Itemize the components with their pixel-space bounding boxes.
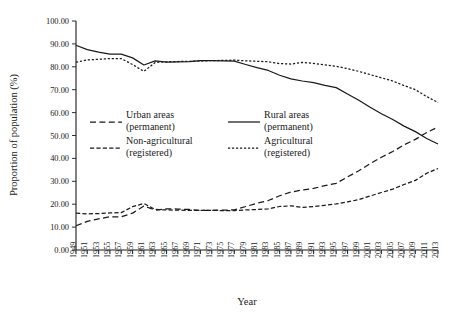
x-tick-label: 2007 (397, 242, 406, 258)
x-tick-label: 1983 (261, 242, 270, 258)
x-tick-label: 1967 (171, 242, 180, 258)
x-tick-label: 1989 (295, 242, 304, 258)
x-tick-label: 1995 (329, 242, 338, 258)
y-tick-label: 100.00 (46, 17, 69, 26)
legend-label-urban-areas: Urban areas (126, 109, 174, 120)
x-tick-label: 1959 (126, 242, 135, 258)
y-tick-label: 80.00 (50, 63, 69, 72)
x-tick-label: 1981 (250, 242, 259, 258)
y-tick-label: 10.00 (50, 223, 69, 232)
series-line-nonagricultural-registered (76, 168, 438, 213)
x-tick-label: 1965 (160, 242, 169, 258)
series-line-agricultural-registered (76, 59, 438, 103)
x-axis: 1949195119531955195719591961196319651967… (69, 242, 440, 258)
y-axis-title: Proportion of population (%) (8, 73, 20, 196)
y-axis-tick-labels: 0.0010.0020.0030.0040.0050.0060.0070.008… (46, 17, 69, 255)
x-tick-label: 1961 (137, 242, 146, 258)
y-tick-label: 90.00 (50, 40, 69, 49)
x-tick-label: 1969 (182, 242, 191, 258)
x-tick-label: 1997 (341, 242, 350, 258)
legend-label-urban-permanent: (permanent) (126, 121, 175, 133)
y-tick-label: 20.00 (50, 200, 69, 209)
line-chart: 0.0010.0020.0030.0040.0050.0060.0070.008… (0, 0, 455, 315)
x-tick-label: 1975 (216, 242, 225, 258)
x-tick-label: 1985 (273, 242, 282, 258)
x-tick-label: 1957 (114, 242, 123, 258)
x-tick-label: 1991 (307, 242, 316, 258)
x-tick-label: 1979 (239, 242, 248, 258)
y-tick-label: 50.00 (50, 132, 69, 141)
chart-figure: 0.0010.0020.0030.0040.0050.0060.0070.008… (0, 0, 455, 315)
chart-legend: Urban areas (permanent) Rural areas (per… (90, 109, 313, 159)
x-tick-label: 1949 (69, 242, 78, 258)
y-tick-label: 30.00 (50, 177, 69, 186)
y-tick-label: 60.00 (50, 109, 69, 118)
x-tick-label: 1993 (318, 242, 327, 258)
x-tick-label: 1963 (148, 242, 157, 258)
x-tick-label: 2011 (420, 242, 429, 258)
x-tick-label: 1955 (103, 242, 112, 258)
x-tick-label: 1973 (205, 242, 214, 258)
x-tick-label: 1953 (92, 242, 101, 258)
x-tick-label: 2005 (386, 242, 395, 258)
y-axis: 0.0010.0020.0030.0040.0050.0060.0070.008… (46, 17, 76, 255)
legend-label-agricultural-registered: (registered) (264, 147, 310, 159)
x-axis-title: Year (237, 296, 257, 307)
y-tick-label: 40.00 (50, 154, 69, 163)
legend-label-rural-areas: Rural areas (264, 109, 309, 120)
legend-label-nonagricultural: Non-agricultural (126, 135, 193, 146)
x-tick-label: 1977 (227, 242, 236, 258)
legend-label-nonagricultural-registered: (registered) (126, 147, 172, 159)
x-tick-label: 2003 (374, 242, 383, 258)
x-tick-label: 1951 (80, 242, 89, 258)
x-tick-label: 2009 (408, 242, 417, 258)
y-tick-label: 0.00 (54, 246, 69, 255)
x-tick-label: 2013 (431, 242, 440, 258)
y-tick-label: 70.00 (50, 86, 69, 95)
legend-label-rural-permanent: (permanent) (264, 121, 313, 133)
x-tick-label: 1971 (193, 242, 202, 258)
y-axis-ticks (72, 21, 76, 250)
legend-label-agricultural: Agricultural (264, 135, 313, 146)
x-tick-label: 1999 (352, 242, 361, 258)
x-tick-label: 1987 (284, 242, 293, 258)
x-tick-label: 2001 (363, 242, 372, 258)
